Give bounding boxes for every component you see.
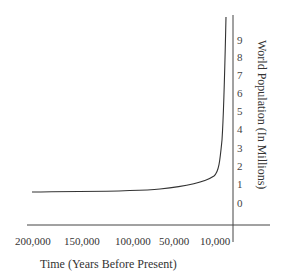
y-tick-2: 2 <box>237 161 243 172</box>
y-tick-6: 6 <box>237 88 243 99</box>
y-tick-5: 5 <box>237 106 243 117</box>
y-tick-1: 1 <box>237 179 243 190</box>
y-tick-0: 0 <box>237 198 243 209</box>
x-tick-150000: 150,000 <box>64 236 100 247</box>
population-curve <box>32 17 226 192</box>
x-tick-200000: 200,000 <box>15 236 51 247</box>
y-tick-7: 7 <box>237 70 243 81</box>
x-axis-label: Time (Years Before Present) <box>40 257 177 272</box>
y-tick-4: 4 <box>237 124 243 135</box>
x-tick-50000: 50,000 <box>159 236 189 247</box>
y-tick-3: 3 <box>237 143 243 154</box>
x-tick-100000: 100,000 <box>115 236 151 247</box>
y-tick-8: 8 <box>237 52 243 63</box>
y-axis-label: World Population (In Millions) <box>254 40 269 189</box>
x-tick-10000: 10,000 <box>200 236 230 247</box>
y-tick-9: 9 <box>237 35 243 46</box>
